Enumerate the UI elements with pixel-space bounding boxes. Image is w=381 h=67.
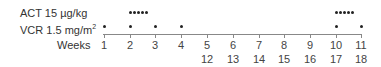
tick-label: 17 bbox=[326, 53, 346, 65]
tick-label: 15 bbox=[274, 53, 294, 65]
tick-label: 18 bbox=[351, 53, 371, 65]
act-label: ACT 15 µg/kg bbox=[20, 7, 87, 19]
tick-label: 6 bbox=[223, 39, 243, 51]
tick-label: 1 bbox=[94, 39, 114, 51]
tick-label: 3 bbox=[145, 39, 165, 51]
vcr-label: VCR 1.5 mg/m2 bbox=[20, 21, 96, 36]
weeks-label: Weeks bbox=[57, 39, 90, 51]
tick-label: 13 bbox=[223, 53, 243, 65]
tick-label: 2 bbox=[120, 39, 140, 51]
tick-label: 11 bbox=[351, 39, 371, 51]
tick-label: 7 bbox=[249, 39, 269, 51]
tick-label: 5 bbox=[197, 39, 217, 51]
vcr-label-main: VCR 1.5 mg/m bbox=[20, 24, 92, 36]
tick-label: 16 bbox=[300, 53, 320, 65]
tick-label: 14 bbox=[249, 53, 269, 65]
vcr-label-sup: 2 bbox=[92, 23, 96, 30]
tick-label: 8 bbox=[274, 39, 294, 51]
tick-label: 12 bbox=[197, 53, 217, 65]
tick-label: 9 bbox=[300, 39, 320, 51]
tick-label: 4 bbox=[171, 39, 191, 51]
tick-label: 10 bbox=[326, 39, 346, 51]
